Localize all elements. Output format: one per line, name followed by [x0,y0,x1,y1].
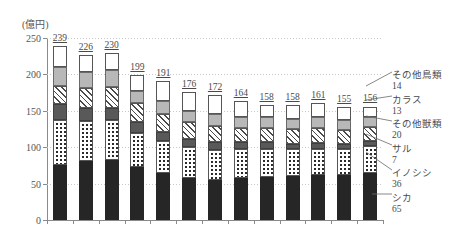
bar-segment-inoshishi [105,120,119,160]
bar[interactable]: 226 [79,38,93,220]
bar-segment-tori [53,46,67,67]
bar-segment-karasu [260,117,274,127]
bar-segment-inoshishi [286,149,300,175]
bar-segment-sonotajuu [156,114,170,132]
bar-total-label: 239 [53,33,67,43]
bar-total-label: 172 [208,82,222,92]
bar[interactable]: 155 [337,38,351,220]
bar-segment-inoshishi [311,149,325,175]
bar-segment-shika [79,161,93,220]
bar-segment-saru [130,122,144,134]
x-axis-tick [305,220,306,224]
bar-segment-shika [311,175,325,220]
bar-segment-tori [130,75,144,91]
bar[interactable]: 156 [363,38,377,220]
bar-segment-karasu [208,114,222,126]
legend-item-label: サル [392,144,461,155]
y-axis-tick [43,147,47,148]
bar-segment-tori [337,107,351,120]
x-axis-tick [99,220,100,224]
bar-segment-shika [156,173,170,220]
legend-item-value: 65 [392,204,461,215]
bar[interactable]: 161 [311,38,325,220]
x-axis-tick [47,220,48,224]
bar-segment-karasu [105,70,119,87]
y-axis-tick-label: 200 [26,69,41,80]
bar-total-label: 230 [104,40,118,50]
bar[interactable]: 230 [105,38,119,220]
bar[interactable]: 158 [260,38,274,220]
bar[interactable]: 239 [53,38,67,220]
legend-item: カラス 13 [392,95,461,120]
legend-item-value: 20 [392,130,461,141]
bar-segment-inoshishi [182,147,196,178]
bar-segment-shika [234,178,248,220]
x-axis-tick [254,220,255,224]
x-axis-tick [176,220,177,224]
legend-item-value: 13 [392,106,461,117]
bar[interactable]: 158 [286,38,300,220]
bar-segment-sonotajuu [182,122,196,139]
bar-segment-sonotajuu [286,129,300,144]
x-axis-tick [202,220,203,224]
x-axis-tick [150,220,151,224]
bar-segment-karasu [79,72,93,87]
bar-segment-inoshishi [156,141,170,174]
bar[interactable]: 172 [208,38,222,220]
legend-item: イノシシ 36 [392,168,461,193]
bar-segment-sonotajuu [363,127,377,142]
legend-item-label: その他獣類 [392,119,461,130]
bar-segment-inoshishi [130,133,144,166]
bar-segment-shika [208,180,222,220]
x-axis-tick [125,220,126,224]
bar-segment-tori [260,105,274,117]
bar-segment-karasu [286,119,300,129]
bar-segment-tori [79,55,93,72]
legend-item-label: イノシシ [392,168,461,179]
bar-segment-inoshishi [363,146,377,172]
bar-segment-tori [156,81,170,101]
bar-segment-saru [260,142,274,149]
y-axis-tick [43,184,47,185]
y-axis-tick-label: 100 [26,142,41,153]
bar-segment-saru [79,108,93,121]
legend-item-value: 14 [392,81,461,92]
x-axis-tick [73,220,74,224]
plot-area: 0501001502002502392262301991911761721641… [47,38,383,220]
bar-segment-sonotajuu [337,130,351,145]
x-axis-tick [280,220,281,224]
bar-segment-karasu [130,91,144,103]
y-axis-tick-label: 50 [31,178,41,189]
bar-segment-karasu [156,101,170,113]
bar-segment-saru [156,132,170,141]
bar-segment-shika [337,175,351,220]
bar-segment-inoshishi [260,149,274,177]
x-axis-line [47,220,383,221]
chart-root: (億円) 05010015020025023922623019919117617… [0,0,461,247]
bar-segment-inoshishi [79,121,93,161]
bar-segment-shika [130,167,144,220]
bar[interactable]: 199 [130,38,144,220]
bar-total-label: 176 [182,79,196,89]
bar-segment-karasu [53,67,67,86]
bar-segment-sonotajuu [53,86,67,104]
legend-item-label: その他鳥類 [392,70,461,81]
bar-total-label: 156 [363,93,377,103]
bar-segment-inoshishi [208,150,222,180]
bar-segment-sonotajuu [105,87,119,108]
bar-segment-sonotajuu [130,103,144,122]
bar-segment-sonotajuu [79,88,93,108]
bar-segment-shika [363,173,377,220]
bar[interactable]: 176 [182,38,196,220]
bar-segment-karasu [182,111,196,123]
bar-segment-sonotajuu [208,126,222,142]
bar-segment-tori [311,103,325,117]
bar-segment-saru [234,142,248,149]
bar-total-label: 164 [234,88,248,98]
bar-segment-inoshishi [234,149,248,178]
bar-segment-saru [182,139,196,147]
bar[interactable]: 191 [156,38,170,220]
bar[interactable]: 164 [234,38,248,220]
x-axis-tick [357,220,358,224]
bar-total-label: 191 [156,68,170,78]
